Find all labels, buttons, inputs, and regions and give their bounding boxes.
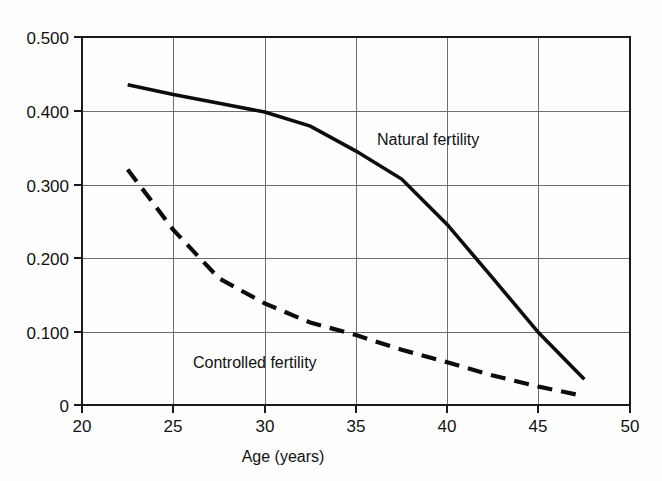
vertical-gridlines [173,37,538,405]
y-tick-label-0500: 0.500 [26,29,69,48]
x-tick-label-40: 40 [438,417,457,436]
x-tick-label-50: 50 [621,417,640,436]
series-label-controlled-fertility: Controlled fertility [193,354,317,371]
series-label-natural-fertility: Natural fertility [377,131,479,148]
y-tick-label-0300: 0.300 [26,177,69,196]
y-tick-label-0400: 0.400 [26,103,69,122]
x-tick-label-30: 30 [256,417,275,436]
x-tick-label-35: 35 [347,417,366,436]
figure-canvas: 0.500 0.400 0.300 0.200 0.100 0 20 25 30… [0,0,662,481]
y-tick-label-0200: 0.200 [26,250,69,269]
y-axis-ticks [74,37,82,405]
series-annotations: Natural fertility Controlled fertility [193,131,479,371]
x-tick-label-20: 20 [73,417,92,436]
x-axis-ticks [82,405,630,413]
x-tick-label-45: 45 [529,417,548,436]
x-tick-label-25: 25 [164,417,183,436]
y-axis-tick-labels: 0.500 0.400 0.300 0.200 0.100 0 [26,29,69,416]
y-tick-label-0100: 0.100 [26,324,69,343]
y-tick-label-0: 0 [60,397,69,416]
x-axis-tick-labels: 20 25 30 35 40 45 50 [73,417,640,436]
x-axis-title: Age (years) [242,448,325,465]
fertility-line-chart: 0.500 0.400 0.300 0.200 0.100 0 20 25 30… [0,0,662,481]
